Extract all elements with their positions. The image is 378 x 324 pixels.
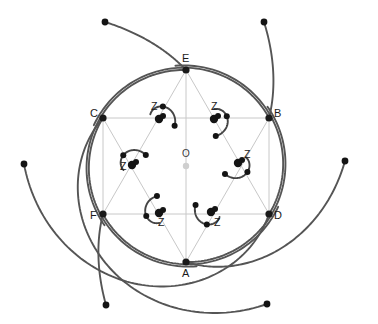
hook-mid-dot xyxy=(160,104,166,110)
hexagon-chord-ef xyxy=(103,70,186,214)
hook-label-z: Z xyxy=(151,100,158,112)
hook-node-dot-secondary xyxy=(133,159,139,165)
vertex-dot-b xyxy=(265,114,272,121)
hook-mid-dot xyxy=(204,221,210,227)
vertex-dot-e xyxy=(182,66,189,73)
hexagon-chord-ac xyxy=(103,118,186,262)
hook-label-z: Z xyxy=(211,100,218,112)
vertex-dot-c xyxy=(99,114,106,121)
spiral-endpoint-dot xyxy=(103,302,110,309)
hook-label-z: Z xyxy=(214,216,221,228)
hook-node-dot-secondary xyxy=(160,113,166,119)
hook-tail-dot xyxy=(193,202,199,208)
vertex-label-c: C xyxy=(90,107,98,119)
hook-label-z: Z xyxy=(158,216,165,228)
hook-tail-dot xyxy=(172,123,178,129)
hook-tail-dot xyxy=(154,193,160,199)
vertex-dot-a xyxy=(182,258,189,265)
hook-tail-dot xyxy=(213,133,219,139)
inner-spiral-arc-from-a xyxy=(186,107,285,262)
spiral-endpoint-dot xyxy=(21,161,28,168)
hook-label-z: Z xyxy=(244,148,251,160)
hexagon-chord-ab xyxy=(186,118,269,262)
vertex-label-e: E xyxy=(182,52,189,64)
center-dot-o xyxy=(183,163,189,169)
spiral-arc-from-b xyxy=(264,22,273,118)
inner-spiral-arc-from-d xyxy=(175,65,283,214)
geometric-figure-canvas: ZZZZZZABCDEFO xyxy=(0,0,378,324)
spiral-endpoint-dot xyxy=(342,158,349,165)
spiral-endpoint-dot xyxy=(102,19,109,26)
inner-spiral-arc-from-b xyxy=(94,68,269,125)
inner-spiral-arc-from-f xyxy=(103,207,278,264)
center-label-o: O xyxy=(182,148,190,159)
spiral-endpoint-dot xyxy=(264,301,271,308)
inner-spiral-arc-from-e xyxy=(87,70,186,225)
spiral-endpoint-dot xyxy=(261,19,268,26)
hook-label-z: Z xyxy=(120,160,127,172)
vertex-label-a: A xyxy=(182,267,190,279)
hook-node-dot-secondary xyxy=(215,113,221,119)
hook-node-dot-secondary xyxy=(212,206,218,212)
inner-spiral-arc-from-c xyxy=(89,118,197,267)
spiral-arc-from-e xyxy=(105,22,186,70)
vertex-dot-f xyxy=(99,210,106,217)
vertex-label-d: D xyxy=(274,209,282,221)
hook-node-dot-secondary xyxy=(160,207,166,213)
hook-mid-dot xyxy=(143,213,149,219)
hook-tail-dot xyxy=(222,171,228,177)
hexagon-chord-ed xyxy=(186,70,269,214)
hook-mid-dot xyxy=(224,113,230,119)
hook-mid-dot xyxy=(244,169,250,175)
figure-svg: ZZZZZZABCDEFO xyxy=(0,0,378,324)
vertex-dot-d xyxy=(265,210,272,217)
hook-mid-dot xyxy=(120,152,126,158)
vertex-label-b: B xyxy=(274,107,281,119)
hook-tail-dot xyxy=(143,152,149,158)
vertex-label-f: F xyxy=(90,209,97,221)
